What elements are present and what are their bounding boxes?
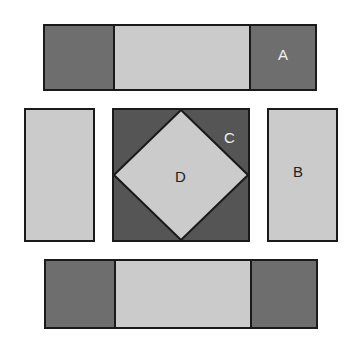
- top-strip: A: [43, 24, 317, 91]
- left-rect: [24, 108, 95, 242]
- center-block: C D: [112, 108, 250, 242]
- label-c: C: [224, 129, 235, 146]
- bottom-strip-left-dark: [46, 261, 114, 327]
- bottom-strip: [44, 259, 318, 329]
- label-a: A: [278, 46, 288, 63]
- bottom-strip-right-dark: [250, 261, 316, 327]
- top-strip-left-dark: [45, 26, 113, 89]
- right-rect-b: B: [267, 108, 338, 242]
- label-d: D: [175, 168, 186, 185]
- bottom-strip-middle-light: [114, 261, 250, 327]
- label-b: B: [293, 163, 303, 180]
- top-strip-right-dark-a: A: [249, 26, 315, 89]
- top-strip-middle-light: [113, 26, 249, 89]
